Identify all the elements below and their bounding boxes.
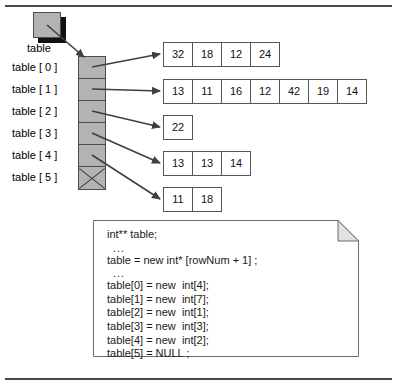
array-cell-0-0: 32 [164,43,193,66]
array-cell-1-3: 12 [251,80,280,103]
array-cell-3-1: 13 [193,152,222,175]
code-line-3: ... [107,267,257,279]
array-cell-0-1: 18 [193,43,222,66]
pointer-cell-0 [79,57,105,79]
pointer-cell-5-null [79,167,105,189]
array-cell-3-0: 13 [164,152,193,175]
array-cell-1-6: 14 [338,80,367,103]
array-cell-0-2: 12 [222,43,251,66]
code-line-0: int** table; [107,228,257,242]
array-cell-1-1: 11 [193,80,222,103]
divider-top [5,5,392,7]
data-array-row-0: 32181224 [163,42,280,67]
code-line-2: table = new int* [rowNum + 1] ; [107,254,257,268]
index-label-4: table [ 4 ] [12,149,57,161]
index-label-2: table [ 2 ] [12,105,57,117]
pointer-array-column [78,56,106,190]
data-array-row-2: 22 [163,115,193,140]
array-cell-2-0: 22 [164,116,193,139]
array-cell-4-0: 11 [164,188,193,211]
data-array-row-3: 131314 [163,151,251,176]
pointer-cell-3 [79,123,105,145]
array-cell-4-1: 18 [193,188,222,211]
code-line-6: table[2] = new int[1]; [107,306,257,320]
index-label-0: table [ 0 ] [12,61,57,73]
data-array-row-1: 13111612421914 [163,79,367,104]
array-cell-1-2: 16 [222,80,251,103]
pointer-cell-2 [79,101,105,123]
root-pointer-box [33,12,61,38]
index-label-1: table [ 1 ] [12,83,57,95]
index-label-3: table [ 3 ] [12,127,57,139]
array-cell-0-3: 24 [251,43,280,66]
array-cell-1-0: 13 [164,80,193,103]
pointer-cell-4 [79,145,105,167]
code-line-5: table[1] = new int[7]; [107,293,257,307]
code-line-4: table[0] = new int[4]; [107,279,257,293]
code-note-text: int** table;...table = new int* [rowNum … [107,228,257,361]
index-label-5: table [ 5 ] [12,171,57,183]
array-cell-1-4: 42 [280,80,309,103]
root-pointer-label: table [27,42,51,54]
array-cell-1-5: 19 [309,80,338,103]
pointer-cell-1 [79,79,105,101]
code-note-box: int** table;...table = new int* [rowNum … [93,220,359,357]
figure-container: table table [ 0 ]table [ 1 ]table [ 2 ]t… [0,0,397,387]
code-line-8: table[4] = new int[2]; [107,334,257,348]
code-line-1: ... [107,242,257,254]
code-line-7: table[3] = new int[3]; [107,320,257,334]
code-line-9: table[5] = NULL ; [107,347,257,361]
array-cell-3-2: 14 [222,152,251,175]
divider-bottom [5,378,392,380]
data-array-row-4: 1118 [163,187,222,212]
